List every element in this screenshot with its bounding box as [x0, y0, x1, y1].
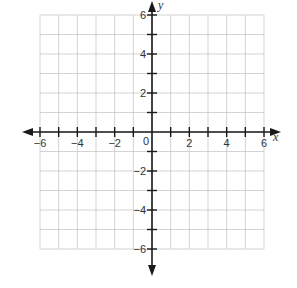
- x-tick-label: −4: [71, 137, 84, 149]
- y-tick-label: 6: [140, 9, 146, 21]
- axes: [22, 1, 281, 276]
- y-tick-label: −4: [133, 204, 146, 216]
- y-axis-up-arrow-icon: [148, 1, 156, 12]
- y-axis-label: y: [157, 0, 164, 12]
- x-tick-label: 6: [261, 137, 267, 149]
- y-tick-label: −2: [133, 165, 146, 177]
- coordinate-plane: −6−4−2246642−2−4−6 x y 0: [0, 0, 297, 288]
- y-tick-label: 4: [140, 48, 146, 60]
- x-tick-label: −2: [108, 137, 121, 149]
- x-tick-label: −6: [34, 137, 47, 149]
- y-tick-label: 2: [140, 87, 146, 99]
- x-tick-label: 2: [186, 137, 192, 149]
- y-tick-label: −6: [133, 243, 146, 255]
- x-axis-left-arrow-icon: [22, 128, 33, 136]
- origin-label: 0: [143, 135, 149, 147]
- y-axis-down-arrow-icon: [148, 265, 156, 276]
- x-tick-label: 4: [224, 137, 230, 149]
- x-axis-label: x: [272, 130, 279, 144]
